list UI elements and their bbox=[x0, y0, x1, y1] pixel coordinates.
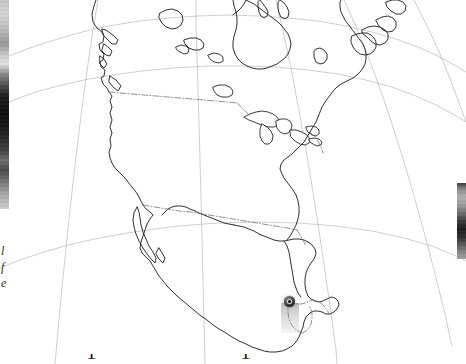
marker-shadow bbox=[281, 303, 299, 333]
north-america-locator-map bbox=[0, 0, 466, 364]
bottom-caption-text: 1 1 bbox=[86, 354, 283, 364]
screenshot-root: l f e 1 1 bbox=[0, 0, 466, 364]
map-canvas bbox=[0, 0, 466, 364]
map-background bbox=[0, 0, 466, 364]
left-photo-strip bbox=[0, 0, 9, 209]
marker-center-dot bbox=[288, 300, 291, 303]
study-site-marker[interactable] bbox=[284, 296, 295, 307]
left-caption-fragment: l f e bbox=[1, 243, 17, 291]
bottom-caption-clipped: 1 1 bbox=[0, 354, 466, 364]
right-photo-thumbnail bbox=[457, 183, 466, 259]
